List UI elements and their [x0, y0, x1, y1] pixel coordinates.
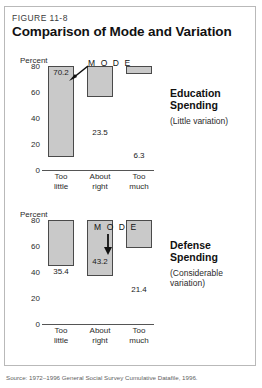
chart-panel-education: Percent 0 20 40 60 80 70.2 23.5 6.3 Too … — [0, 52, 262, 200]
x-label-line1: About — [80, 326, 120, 336]
source-caption: Source: 1972–1996 General Social Survey … — [6, 374, 256, 381]
x-axis-line-defense — [42, 324, 154, 325]
side-title-line1: Defense — [170, 240, 258, 252]
x-label-line1: Too — [41, 172, 81, 182]
side-block-defense: Defense Spending (Considerable variation… — [170, 240, 258, 288]
x-label-too-much: Too much — [119, 326, 159, 345]
x-label-line2: much — [119, 182, 159, 192]
x-label-line1: About — [80, 172, 120, 182]
chart-panel-defense: Percent 0 20 40 60 80 35.4 43.2 21.4 Too… — [0, 206, 262, 354]
y-tick: 0 — [18, 166, 40, 175]
x-label-line2: much — [119, 336, 159, 346]
side-title-line1: Education — [170, 88, 258, 100]
x-label-about-right: About right — [80, 326, 120, 345]
bar-value: 23.5 — [92, 128, 108, 137]
side-title-education: Education Spending — [170, 88, 258, 111]
x-label-line2: little — [41, 182, 81, 192]
x-label-line1: Too — [119, 172, 159, 182]
y-axis-ticks-defense: 0 20 40 60 80 — [18, 220, 40, 324]
y-tick: 20 — [18, 294, 40, 303]
x-axis-line-education — [42, 170, 154, 171]
bars-education: 70.2 23.5 6.3 — [44, 66, 156, 170]
x-label-too-little: Too little — [41, 172, 81, 191]
x-label-line2: right — [80, 336, 120, 346]
x-label-too-much: Too much — [119, 172, 159, 191]
mode-arrow-icon-defense — [100, 234, 116, 256]
side-note-line1: (Considerable — [170, 268, 258, 278]
bar-group-too-much: 6.3 — [126, 66, 152, 170]
x-label-line1: Too — [41, 326, 81, 336]
x-label-about-right: About right — [80, 172, 120, 191]
side-block-education: Education Spending (Little variation) — [170, 88, 258, 126]
mode-arrow-icon-education — [66, 64, 90, 84]
bar-value: 43.2 — [92, 257, 108, 266]
page-title: Comparison of Mode and Variation — [12, 24, 232, 39]
y-tick: 60 — [18, 242, 40, 251]
bar — [48, 220, 74, 266]
bar-value: 35.4 — [53, 267, 69, 276]
side-note-defense: (Considerable variation) — [170, 268, 258, 288]
y-tick: 60 — [18, 88, 40, 97]
side-title-defense: Defense Spending — [170, 240, 258, 263]
mode-annotation-label-defense: M O D E — [94, 222, 138, 232]
bar-group-too-much: 21.4 — [126, 220, 152, 324]
x-label-too-little: Too little — [41, 326, 81, 345]
side-note-line2: variation) — [170, 278, 258, 288]
y-tick: 80 — [18, 216, 40, 225]
bar-value: 21.4 — [131, 285, 147, 294]
x-label-line2: right — [80, 182, 120, 192]
side-title-line2: Spending — [170, 252, 258, 264]
bar-value: 6.3 — [133, 151, 144, 160]
y-tick: 80 — [18, 62, 40, 71]
y-tick: 20 — [18, 140, 40, 149]
y-tick: 40 — [18, 268, 40, 277]
y-tick: 40 — [18, 114, 40, 123]
bar-group-about-right: 23.5 — [87, 66, 113, 170]
side-title-line2: Spending — [170, 100, 258, 112]
mode-annotation-label-education: M O D E — [88, 58, 132, 68]
x-label-line2: little — [41, 336, 81, 346]
x-label-line1: Too — [119, 326, 159, 336]
side-note-education: (Little variation) — [170, 116, 258, 126]
bar-group-too-little: 35.4 — [48, 220, 74, 324]
figure-number: FIGURE 11-8 — [12, 13, 68, 23]
y-axis-ticks-education: 0 20 40 60 80 — [18, 66, 40, 170]
bar — [87, 66, 113, 97]
y-tick: 0 — [18, 320, 40, 329]
